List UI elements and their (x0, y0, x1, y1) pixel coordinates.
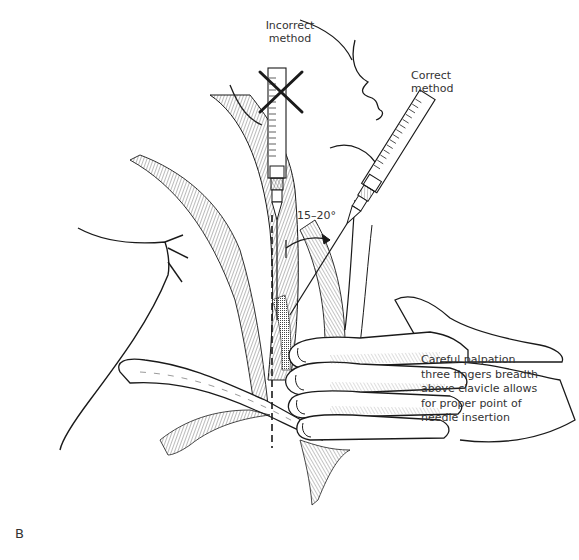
first-rib (160, 410, 270, 455)
sternum-region (300, 440, 350, 505)
panel-label: B (15, 527, 24, 540)
correct-syringe (282, 90, 435, 320)
needle-insertion-illustration (0, 0, 579, 560)
angle-label: 15–20° (297, 209, 336, 222)
palpation-note: Careful palpation three fingers breadth … (421, 353, 571, 426)
incorrect-method-label: Incorrect method (258, 19, 322, 45)
shoulder-outline (60, 228, 188, 450)
correct-method-label: Correct method (411, 69, 471, 95)
